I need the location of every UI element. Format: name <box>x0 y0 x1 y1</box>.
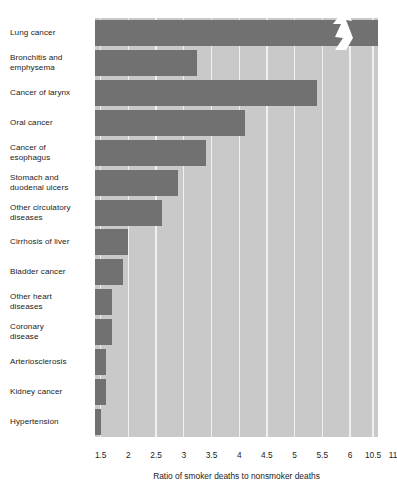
category-label: Stomach andduodenal ulcers <box>10 173 95 193</box>
category-label-line: Oral cancer <box>10 118 95 128</box>
category-label: Bronchitis andemphysema <box>10 53 95 73</box>
category-label: Cancer ofesophagus <box>10 143 95 163</box>
x-tick-label: 2 <box>126 450 131 460</box>
plot-area <box>95 18 378 437</box>
bar <box>95 80 317 106</box>
x-tick-label: 10.5 <box>365 450 381 460</box>
category-label-line: emphysema <box>10 63 95 73</box>
category-label-line: esophagus <box>10 153 95 163</box>
category-label: Coronarydisease <box>10 322 95 342</box>
category-label-line: disease <box>10 332 95 342</box>
category-label: Cancer of larynx <box>10 88 95 98</box>
bar <box>95 319 112 345</box>
bar-row <box>95 200 378 226</box>
category-label-line: Stomach and <box>10 173 95 183</box>
category-label-line: Hypertension <box>10 417 95 427</box>
x-tick-label: 2.5 <box>150 450 162 460</box>
bar <box>95 170 178 196</box>
bar-row <box>95 50 378 76</box>
x-tick-label: 4.5 <box>261 450 273 460</box>
x-axis-title: Ratio of smoker deaths to nonsmoker deat… <box>95 471 378 481</box>
x-axis: 1.522.533.544.555.5610.511 <box>95 437 378 461</box>
x-tick-label: 3 <box>181 450 186 460</box>
category-label-line: duodenal ulcers <box>10 183 95 193</box>
bar-row <box>95 110 378 136</box>
category-label-line: diseases <box>10 302 95 312</box>
bar <box>95 229 128 255</box>
bar-row <box>95 140 378 166</box>
category-label: Other circulatorydiseases <box>10 203 95 223</box>
x-tick-label: 3.5 <box>206 450 218 460</box>
category-label: Oral cancer <box>10 118 95 128</box>
category-label: Hypertension <box>10 417 95 427</box>
bar <box>95 349 106 375</box>
category-label-line: Other heart <box>10 292 95 302</box>
x-tick-label: 4 <box>237 450 242 460</box>
bar-row <box>95 170 378 196</box>
category-label-line: Coronary <box>10 322 95 332</box>
bar-row <box>95 379 378 405</box>
category-label-line: Other circulatory <box>10 203 95 213</box>
bar-row <box>95 349 378 375</box>
bar-row <box>95 80 378 106</box>
bar <box>95 379 106 405</box>
bar <box>95 409 101 435</box>
category-label-line: Bronchitis and <box>10 53 95 63</box>
category-label-line: Kidney cancer <box>10 387 95 397</box>
bar-row <box>95 289 378 315</box>
x-tick-label: 6 <box>348 450 353 460</box>
category-label-line: Bladder cancer <box>10 267 95 277</box>
bar-row <box>95 409 378 435</box>
bar <box>95 200 162 226</box>
category-label-line: Lung cancer <box>10 28 95 38</box>
bar-row <box>95 20 378 46</box>
category-label-line: Arteriosclerosis <box>10 357 95 367</box>
bar-row <box>95 259 378 285</box>
category-label-line: Cancer of <box>10 143 95 153</box>
x-tick-label: 5.5 <box>317 450 329 460</box>
bar <box>95 20 378 46</box>
category-label: Bladder cancer <box>10 267 95 277</box>
bar <box>95 50 197 76</box>
category-label: Other heartdiseases <box>10 292 95 312</box>
category-label-line: Cancer of larynx <box>10 88 95 98</box>
bar <box>95 140 206 166</box>
x-tick-label: 11 <box>389 450 397 460</box>
category-label: Arteriosclerosis <box>10 357 95 367</box>
category-label: Kidney cancer <box>10 387 95 397</box>
category-label-column: Lung cancerBronchitis andemphysemaCancer… <box>0 18 95 437</box>
x-tick-label: 1.5 <box>95 450 107 460</box>
category-label-line: diseases <box>10 213 95 223</box>
category-label-line: Cirrhosis of liver <box>10 237 95 247</box>
bar-row <box>95 229 378 255</box>
bar <box>95 110 245 136</box>
x-tick-label: 5 <box>292 450 297 460</box>
bar-chart: Lung cancerBronchitis andemphysemaCancer… <box>0 0 397 498</box>
category-label: Cirrhosis of liver <box>10 237 95 247</box>
bar <box>95 289 112 315</box>
category-label: Lung cancer <box>10 28 95 38</box>
bar <box>95 259 123 285</box>
bar-row <box>95 319 378 345</box>
